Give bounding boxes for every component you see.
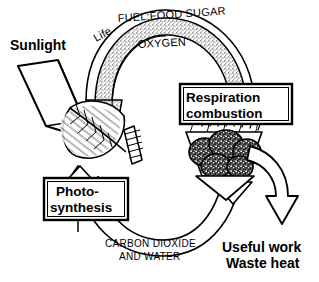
useful-work-label: Useful work (222, 239, 302, 255)
burning-coal-illustration (186, 130, 262, 200)
life-label: Life (91, 24, 113, 43)
energy-cycle-diagram: FUEL:FOOD SUGAR Life OXYGEN CARBON DIOXI… (0, 0, 319, 282)
useful-work-waste-heat-arrow (247, 146, 298, 224)
respiration-line2: combustion (186, 106, 263, 121)
sunlight-label: Sunlight (10, 37, 66, 53)
diagram-canvas: FUEL:FOOD SUGAR Life OXYGEN CARBON DIOXI… (0, 0, 319, 282)
photosynthesis-line2: synthesis (50, 200, 112, 215)
and-water-label: AND WATER (119, 251, 181, 262)
respiration-line1: Respiration (186, 90, 260, 105)
carbon-dioxide-label: CARBON DIOXIDE (105, 238, 196, 249)
waste-heat-label: Waste heat (226, 255, 300, 271)
oxygen-label: OXYGEN (137, 35, 186, 50)
photosynthesis-line1: Photo- (56, 184, 99, 199)
